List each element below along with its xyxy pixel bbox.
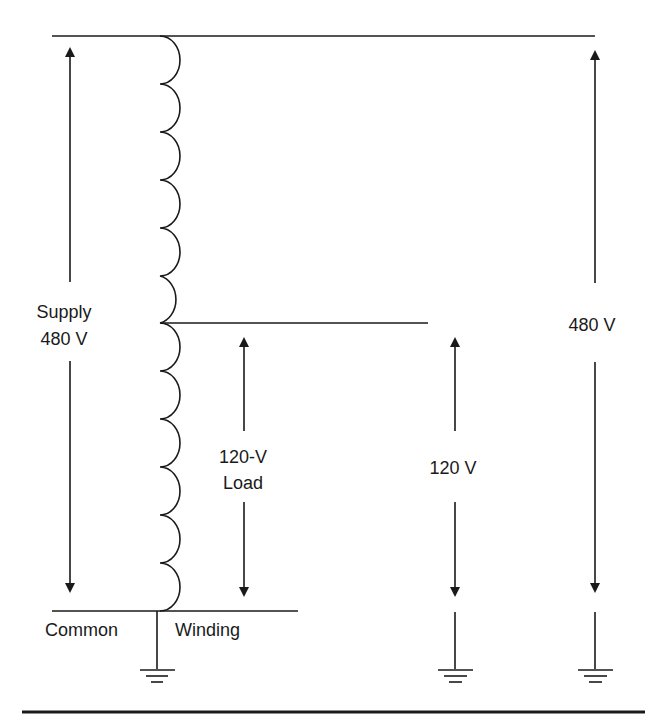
ground-icon bbox=[140, 670, 175, 682]
load-label-2: Load bbox=[223, 473, 263, 493]
winding-label: Winding bbox=[175, 620, 240, 640]
supply-label: Supply bbox=[36, 302, 91, 322]
load-label: 120-V bbox=[219, 447, 267, 467]
common-label: Common bbox=[45, 620, 118, 640]
primary-voltage-label: 480 V bbox=[568, 315, 615, 335]
ground-icon bbox=[578, 670, 613, 682]
autotransformer-diagram: Supply 480 V 120-V Load 120 V 480 V Comm… bbox=[0, 0, 650, 726]
ground-icon bbox=[438, 670, 473, 682]
secondary-voltage-label: 120 V bbox=[429, 458, 476, 478]
supply-voltage-label: 480 V bbox=[40, 329, 87, 349]
